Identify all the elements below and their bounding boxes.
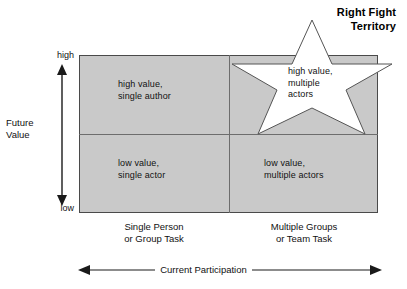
y-axis-high-label: high xyxy=(30,50,74,60)
y-axis-arrow-icon xyxy=(55,64,69,206)
quadrant-label-top-right: high value, multiple actors xyxy=(288,66,333,101)
diagram-title: Right Fight Territory xyxy=(337,5,396,33)
quadrant-diagram: high value, single author low value, sin… xyxy=(0,0,407,289)
quadrant-label-top-left: high value, single author xyxy=(118,79,171,102)
quadrant-label-bottom-right: low value, multiple actors xyxy=(264,158,324,181)
x-axis-right-caption: Multiple Groups or Team Task xyxy=(229,221,379,245)
x-axis-left-caption: Single Person or Group Task xyxy=(79,221,229,245)
x-axis-title-wrap: Current Participation xyxy=(0,262,407,278)
y-axis-title: Future Value xyxy=(6,117,56,141)
x-axis-title: Current Participation xyxy=(155,264,252,275)
quadrant-label-bottom-left: low value, single actor xyxy=(118,158,165,181)
